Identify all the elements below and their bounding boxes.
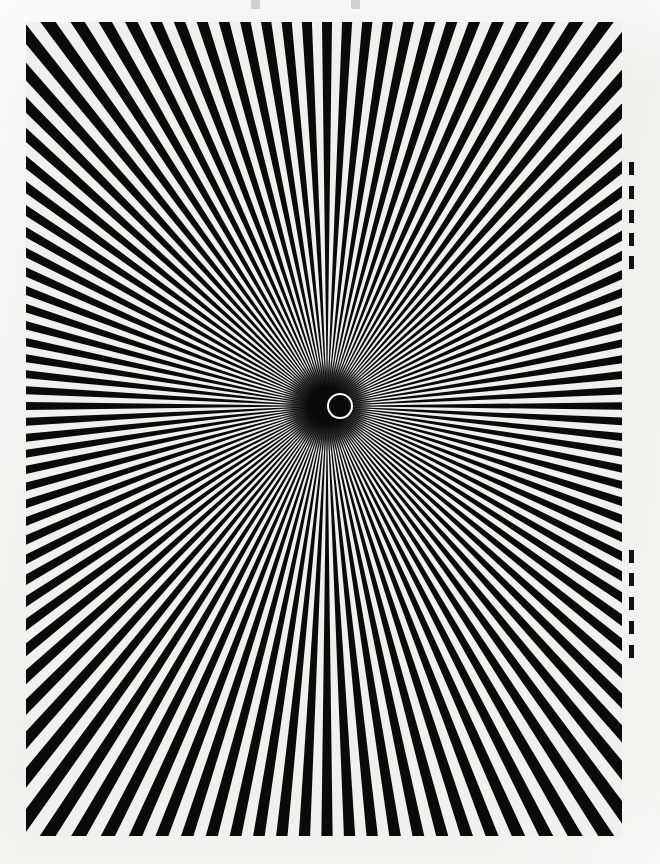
starburst-rays: [26, 22, 622, 836]
registration-dash: [629, 550, 634, 563]
registration-dash: [629, 210, 634, 223]
scan-artifact-right: [351, 0, 360, 9]
artwork-plate-wrapper: [26, 22, 622, 836]
starburst-gap: [327, 406, 370, 836]
starburst-gap: [284, 406, 327, 836]
registration-dash: [629, 186, 634, 199]
paper-sheet: Black and white radiating ray figure wit…: [0, 0, 660, 864]
registration-dash: [629, 233, 634, 246]
registration-dash: [629, 573, 634, 586]
centre-ring-icon: [327, 393, 353, 419]
artwork-plate: [26, 22, 622, 836]
registration-dash: [629, 645, 634, 658]
registration-dash: [629, 256, 634, 269]
registration-dash: [629, 621, 634, 634]
scan-artifact-left: [251, 0, 260, 9]
registration-dash: [629, 162, 634, 175]
registration-dash: [629, 597, 634, 610]
ray-group: [26, 22, 622, 836]
